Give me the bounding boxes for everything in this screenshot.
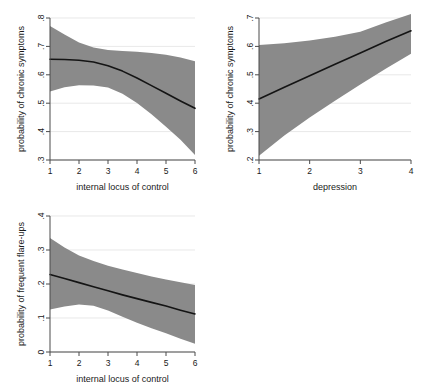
- y-tick-label: .2: [245, 156, 255, 163]
- y-tick-label: .6: [245, 43, 255, 50]
- y-tick-label: .3: [36, 246, 46, 253]
- y-tick-label: .6: [36, 71, 46, 78]
- x-axis-title: internal locus of control: [76, 182, 169, 192]
- plot-panel-locus-flareups: 1234560.1.2.3.4internal locus of control…: [0, 194, 216, 388]
- y-axis-title: probability of frequent flare-ups: [16, 221, 26, 346]
- y-tick-label: .3: [245, 128, 255, 135]
- x-tick-label: 1: [257, 166, 262, 176]
- chart-panel-locus-chronic: 123456.3.4.5.6.7.8internal locus of cont…: [0, 0, 216, 196]
- y-tick-label: .7: [36, 43, 46, 50]
- y-tick-label: .5: [36, 99, 46, 106]
- x-tick-label: 3: [358, 166, 363, 176]
- x-tick-label: 6: [193, 358, 198, 368]
- plot-panel-depression-chronic: 1234.2.3.4.5.6.7depressionprobability of…: [215, 0, 437, 196]
- x-tick-label: 4: [135, 166, 140, 176]
- x-tick-label: 3: [106, 358, 111, 368]
- x-tick-label: 5: [164, 358, 169, 368]
- y-tick-label: .1: [36, 314, 46, 321]
- x-tick-label: 5: [164, 166, 169, 176]
- y-tick-label: .4: [36, 212, 46, 219]
- x-axis-title: depression: [313, 182, 357, 192]
- x-tick-label: 2: [307, 166, 312, 176]
- y-tick-label: 0: [36, 349, 46, 354]
- chart-panel-depression-chronic: 1234.2.3.4.5.6.7depressionprobability of…: [215, 0, 437, 196]
- confidence-band: [50, 238, 195, 344]
- y-tick-label: .3: [36, 156, 46, 163]
- y-tick-label: .7: [245, 14, 255, 21]
- y-axis-title: probability of chronic symptoms: [16, 25, 26, 152]
- y-axis-title: probability of chronic symptoms: [225, 25, 235, 152]
- y-tick-label: .8: [36, 14, 46, 21]
- x-tick-label: 2: [77, 358, 82, 368]
- x-axis-title: internal locus of control: [76, 374, 169, 384]
- x-tick-label: 1: [48, 358, 53, 368]
- y-tick-label: .2: [36, 280, 46, 287]
- figure-canvas: 123456.3.4.5.6.7.8internal locus of cont…: [0, 0, 437, 388]
- y-tick-label: .5: [245, 71, 255, 78]
- y-tick-label: .4: [245, 99, 255, 106]
- confidence-band: [259, 14, 411, 156]
- x-tick-label: 4: [409, 166, 414, 176]
- x-tick-label: 2: [77, 166, 82, 176]
- x-tick-label: 6: [193, 166, 198, 176]
- x-tick-label: 3: [106, 166, 111, 176]
- confidence-band: [50, 26, 195, 155]
- chart-panel-locus-flareups: 1234560.1.2.3.4internal locus of control…: [0, 194, 216, 388]
- y-tick-label: .4: [36, 128, 46, 135]
- x-tick-label: 4: [135, 358, 140, 368]
- x-tick-label: 1: [48, 166, 53, 176]
- plot-panel-locus-chronic: 123456.3.4.5.6.7.8internal locus of cont…: [0, 0, 216, 196]
